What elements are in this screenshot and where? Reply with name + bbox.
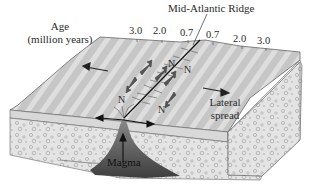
age-tick-left-3: 3.0 [129,26,142,36]
age-tick-right-2: 2.0 [233,34,246,44]
polarity-n-label: N [184,64,191,75]
age-tick-right-3: 3.0 [257,36,270,46]
age-label-line1: Age [24,21,96,32]
diagram-title: Mid-Atlantic Ridge [168,3,254,14]
lateral-line2: spread [207,110,243,121]
magma-label: Magma [107,157,141,168]
lateral-line1: Lateral [207,97,243,108]
age-tick-left-07: 0.7 [180,28,193,38]
age-tick-right-07: 0.7 [206,30,219,40]
age-label-line2: (million years) [24,34,96,45]
polarity-n-label: N [118,94,125,105]
age-axis-label: Age (million years) [24,21,96,45]
polarity-n-label: N [158,104,165,115]
lateral-spread-label: Lateral spread [207,97,243,121]
polarity-n-label: N [168,58,175,69]
age-tick-left-2: 2.0 [153,26,166,36]
